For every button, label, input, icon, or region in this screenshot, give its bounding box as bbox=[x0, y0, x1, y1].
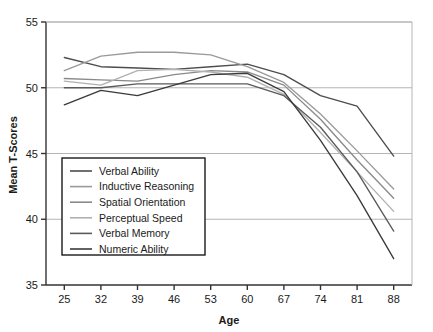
chart-container: 3540455055 25323946536067748188 Verbal A… bbox=[0, 0, 433, 332]
legend-label-verbal-memory[interactable]: Verbal Memory bbox=[99, 227, 170, 239]
x-tick-label: 74 bbox=[314, 293, 326, 305]
y-tick-label: 55 bbox=[26, 16, 38, 28]
x-axis-title: Age bbox=[219, 314, 240, 326]
x-tick-label: 39 bbox=[131, 293, 143, 305]
legend-label-spatial-orientation[interactable]: Spatial Orientation bbox=[99, 196, 186, 208]
y-tick-label: 45 bbox=[26, 148, 38, 160]
x-tick-label: 46 bbox=[168, 293, 180, 305]
x-tick-label: 53 bbox=[205, 293, 217, 305]
x-tick-label: 32 bbox=[95, 293, 107, 305]
legend-box[interactable]: Verbal AbilityInductive ReasoningSpatial… bbox=[62, 158, 205, 255]
y-tick-group: 3540455055 bbox=[26, 16, 46, 291]
y-tick-label: 40 bbox=[26, 213, 38, 225]
x-tick-group: 25323946536067748188 bbox=[58, 285, 400, 305]
y-tick-label: 50 bbox=[26, 82, 38, 94]
y-axis-title: Mean T-Scores bbox=[7, 116, 19, 194]
x-tick-label: 60 bbox=[241, 293, 253, 305]
x-tick-label: 81 bbox=[351, 293, 363, 305]
legend-label-inductive-reasoning[interactable]: Inductive Reasoning bbox=[99, 180, 194, 192]
y-tick-label: 35 bbox=[26, 279, 38, 291]
x-tick-label: 25 bbox=[58, 293, 70, 305]
series-line-verbal-ability bbox=[64, 58, 393, 157]
legend-label-perceptual-speed[interactable]: Perceptual Speed bbox=[99, 212, 183, 224]
legend-label-verbal-ability[interactable]: Verbal Ability bbox=[99, 165, 160, 177]
legend-label-numeric-ability[interactable]: Numeric Ability bbox=[99, 243, 169, 255]
x-tick-label: 88 bbox=[388, 293, 400, 305]
line-chart: 3540455055 25323946536067748188 Verbal A… bbox=[0, 0, 433, 332]
x-tick-label: 67 bbox=[278, 293, 290, 305]
